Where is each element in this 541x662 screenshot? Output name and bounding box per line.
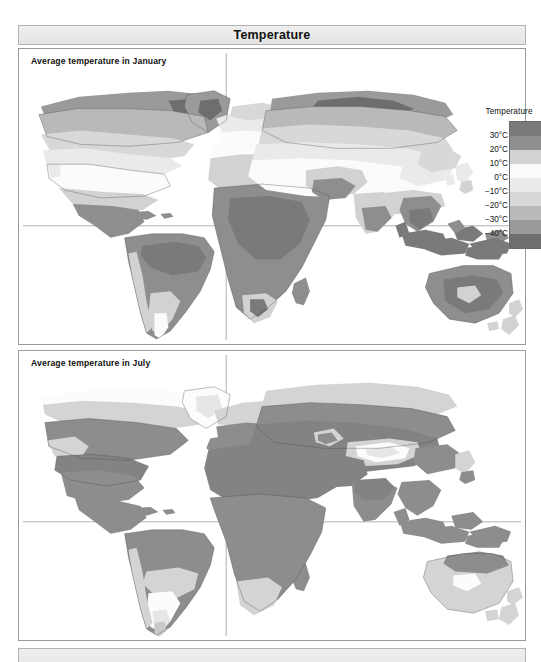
temperature-figure-page: Temperature Average temperature in Janua… xyxy=(0,0,541,662)
legend-swatch xyxy=(510,178,541,192)
legend-swatch xyxy=(510,206,541,220)
legend-january: Temperature 30°C 20°C 10°C xyxy=(474,107,541,121)
legend-swatch xyxy=(510,192,541,206)
legend-label: −40°C xyxy=(485,230,508,238)
legend-label: 0°C xyxy=(494,174,508,182)
legend-label: 30°C xyxy=(490,132,508,140)
legend-colorbar-january xyxy=(509,121,541,249)
legend-label: −30°C xyxy=(485,216,508,224)
map-title-july: Average temperature in July xyxy=(31,358,150,368)
legend-swatch xyxy=(510,122,541,136)
map-title-january: Average temperature in January xyxy=(31,56,167,66)
figure-title-bar: Temperature xyxy=(18,25,526,45)
legend-swatch xyxy=(510,136,541,150)
map-panel-july: Average temperature in July .uA{fill:#c9… xyxy=(18,350,526,641)
page-title: Temperature xyxy=(19,26,525,44)
map-canvas-january: .jA{fill:#6e6e6e} /* below -40 */ .jB{fi… xyxy=(19,49,525,344)
legend-label: −10°C xyxy=(485,188,508,196)
map-canvas-july: .uA{fill:#c9c9c9} /* below -10 */ .uB{fi… xyxy=(19,351,525,640)
legend-swatch xyxy=(510,220,541,234)
legend-title-january: Temperature xyxy=(474,107,541,116)
legend-label: 10°C xyxy=(490,160,508,168)
world-map-january: .jA{fill:#6e6e6e} /* below -40 */ .jB{fi… xyxy=(19,49,525,344)
legend-swatch xyxy=(510,150,541,164)
map-panel-january: Average temperature in January .jA{fill:… xyxy=(18,48,526,345)
world-map-july: .uA{fill:#c9c9c9} /* below -10 */ .uB{fi… xyxy=(19,351,525,640)
legend-swatch xyxy=(510,234,541,248)
next-section-bar xyxy=(18,648,526,662)
legend-label: −20°C xyxy=(485,202,508,210)
legend-label: 20°C xyxy=(490,146,508,154)
legend-swatch xyxy=(510,164,541,178)
